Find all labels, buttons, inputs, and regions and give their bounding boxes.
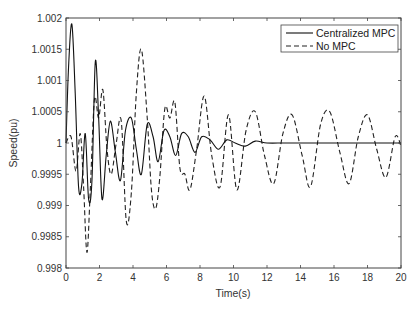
legend: Centralized MPC No MPC — [281, 25, 398, 52]
y-tick-label: 0.998 — [37, 263, 62, 274]
x-tick-label: 14 — [295, 272, 307, 283]
y-tick-label: 1.001 — [37, 75, 62, 86]
x-tick-label: 6 — [164, 272, 170, 283]
series-no-mpc-line — [66, 49, 401, 253]
legend-label-centralized-mpc: Centralized MPC — [316, 27, 396, 39]
x-tick-label: 8 — [197, 272, 203, 283]
y-tick-label: 1.002 — [37, 13, 62, 24]
y-tick-label: 1 — [56, 138, 62, 149]
legend-label-no-mpc: No MPC — [316, 40, 356, 52]
x-tick-label: 18 — [362, 272, 374, 283]
y-tick-label: 0.999 — [37, 200, 62, 211]
speed-chart: 02468101214161820 0.9980.99850.9990.9995… — [0, 0, 419, 313]
y-tick-label: 1.0005 — [31, 106, 62, 117]
x-axis-label: Time(s) — [215, 287, 250, 299]
x-tick-label: 0 — [63, 272, 69, 283]
y-tick-label: 1.0015 — [31, 44, 62, 55]
y-tick-label: 0.9995 — [31, 169, 62, 180]
x-tick-label: 4 — [130, 272, 136, 283]
x-tick-label: 12 — [261, 272, 273, 283]
x-tick-label: 2 — [97, 272, 103, 283]
x-tick-label: 16 — [328, 272, 340, 283]
plot-lines — [66, 24, 401, 253]
x-tick-label: 10 — [228, 272, 240, 283]
y-axis-label: Speed(pu) — [7, 118, 19, 167]
y-tick-label: 0.9985 — [31, 231, 62, 242]
x-tick-label: 20 — [395, 272, 407, 283]
